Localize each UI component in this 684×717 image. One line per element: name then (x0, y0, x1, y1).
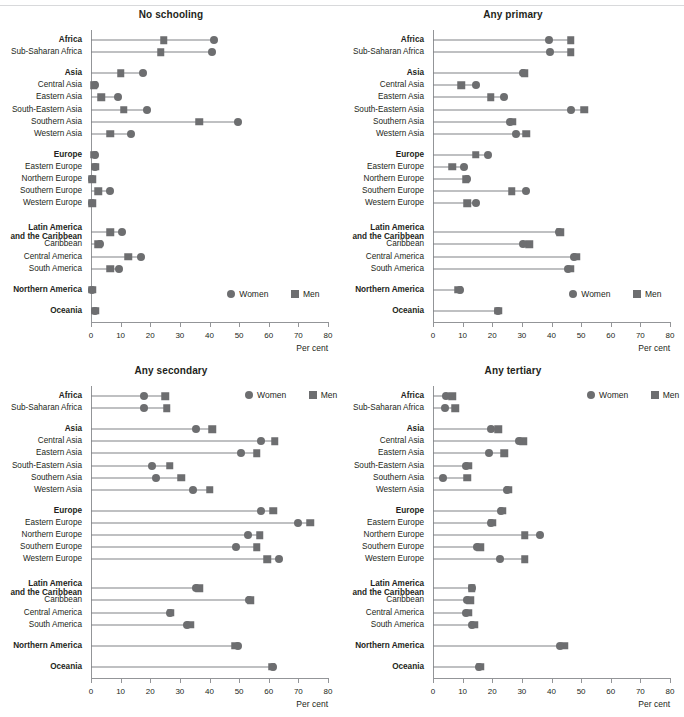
category-label: Eastern Asia (36, 449, 82, 458)
men-marker (98, 94, 106, 102)
x-axis-tick-label: 80 (666, 331, 675, 340)
women-marker (96, 240, 104, 248)
category-label: Africa (401, 36, 424, 45)
men-marker (306, 519, 314, 527)
x-axis-tick-label: 80 (666, 687, 675, 696)
women-marker (88, 199, 96, 207)
women-marker (106, 187, 114, 195)
x-axis-tick-label: 30 (175, 331, 184, 340)
connector-line (91, 510, 273, 511)
category-label: Eastern Asia (36, 93, 82, 102)
connector-line (433, 645, 565, 646)
category-label: South America (371, 620, 424, 629)
women-marker (232, 543, 240, 551)
men-marker (521, 555, 529, 563)
connector-line (91, 535, 260, 536)
x-axis-tick (670, 678, 671, 683)
x-axis-tick (180, 678, 181, 683)
x-axis-tick-label: 20 (488, 331, 497, 340)
connector-line (91, 522, 310, 523)
category-label: Southern Europe (362, 187, 424, 196)
connector-line (91, 453, 257, 454)
chart-legend: WomenMen (245, 390, 337, 400)
x-axis-tick (328, 322, 329, 327)
x-axis-tick (581, 678, 582, 683)
women-marker (148, 462, 156, 470)
women-marker (487, 425, 495, 433)
women-marker (472, 199, 480, 207)
x-axis-tick (463, 322, 464, 327)
category-label: Asia (407, 425, 424, 434)
x-axis-tick-label: 20 (488, 687, 497, 696)
category-label: South-Eastern Asia (12, 461, 82, 470)
women-marker (473, 543, 481, 551)
women-marker (257, 437, 265, 445)
connector-line (433, 232, 560, 233)
x-axis-tick-label: 40 (205, 687, 214, 696)
women-marker (115, 265, 123, 273)
women-marker (463, 596, 471, 604)
connector-line (91, 441, 275, 442)
x-axis-tick (522, 678, 523, 683)
x-axis-tick (433, 322, 434, 327)
chart-panel-any-secondary: Any secondary01020304050607080AfricaSub-… (0, 356, 342, 714)
x-axis-tick-label: 40 (205, 331, 214, 340)
women-marker (494, 307, 502, 315)
men-marker (508, 187, 516, 195)
category-label: Eastern Europe (367, 163, 424, 172)
x-axis-tick (91, 678, 92, 683)
circle-marker-icon (227, 290, 235, 298)
women-marker (275, 555, 283, 563)
women-marker (127, 130, 135, 138)
category-label: Central Asia (38, 81, 82, 90)
x-axis-tick (269, 322, 270, 327)
x-axis-tick-label: 0 (89, 687, 93, 696)
x-axis-tick-label: 40 (547, 331, 556, 340)
y-axis-line (433, 30, 434, 322)
x-axis-tick-label: 50 (577, 331, 586, 340)
x-axis-tick (328, 678, 329, 683)
category-label: Oceania (50, 662, 82, 671)
men-marker (206, 486, 214, 494)
men-marker (253, 450, 261, 458)
connector-line (91, 600, 251, 601)
women-marker (143, 106, 151, 114)
x-axis-tick (121, 322, 122, 327)
women-marker (519, 240, 527, 248)
category-label: Northern America (13, 285, 82, 294)
connector-line (91, 40, 214, 41)
women-marker (294, 519, 302, 527)
category-label: Caribbean (386, 240, 424, 249)
women-marker (515, 437, 523, 445)
x-axis-tick (210, 678, 211, 683)
connector-line (91, 645, 238, 646)
chart-panel-any-primary: Any primary01020304050607080AfricaSub-Sa… (342, 0, 684, 358)
chart-legend: WomenMen (227, 289, 319, 299)
category-label: Asia (65, 425, 82, 434)
x-axis-tick (91, 322, 92, 327)
x-axis-label: Per cent (433, 699, 670, 709)
x-axis-tick (581, 322, 582, 327)
category-label: Southern Europe (362, 543, 424, 552)
connector-line (433, 73, 525, 74)
women-marker (208, 48, 216, 56)
connector-line (91, 588, 199, 589)
category-label: Western Asia (34, 129, 82, 138)
x-axis-tick (298, 678, 299, 683)
women-marker (88, 286, 96, 294)
connector-line (91, 121, 238, 122)
x-axis-tick (492, 322, 493, 327)
square-marker-icon (309, 391, 317, 399)
category-label: Western Europe (23, 555, 82, 564)
women-marker (88, 175, 96, 183)
y-axis-line (433, 386, 434, 678)
legend-label-women: Women (239, 289, 268, 299)
women-marker (472, 81, 480, 89)
circle-marker-icon (587, 391, 595, 399)
connector-line (433, 85, 476, 86)
women-marker (468, 584, 476, 592)
category-label: Europe (54, 506, 82, 515)
x-axis-label: Per cent (91, 343, 328, 353)
men-marker (472, 151, 480, 159)
category-label: Eastern Europe (367, 519, 424, 528)
